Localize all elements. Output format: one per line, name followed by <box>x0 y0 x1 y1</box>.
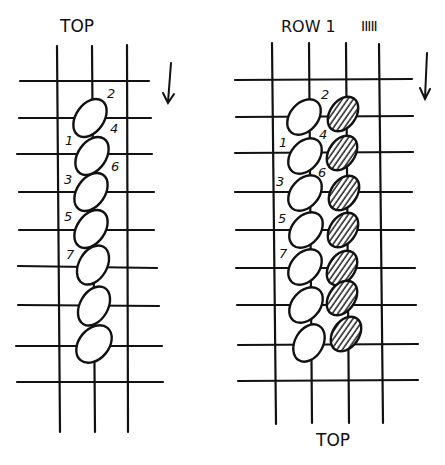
left-title: TOP <box>59 16 94 36</box>
right-hatched-stitches <box>320 91 367 357</box>
svg-text:3: 3 <box>64 172 72 187</box>
svg-text:5: 5 <box>278 211 286 226</box>
right-title: ROW 1 <box>281 17 336 36</box>
svg-text:7: 7 <box>279 246 288 261</box>
svg-text:6: 6 <box>111 159 119 174</box>
right-panel: ROW 1 IIIII <box>235 17 430 450</box>
svg-text:6: 6 <box>318 165 326 180</box>
arrow-down-icon <box>420 53 430 99</box>
svg-text:2: 2 <box>321 87 329 102</box>
svg-text:2: 2 <box>107 86 115 101</box>
left-panel: TOP 1 2 3 4 <box>16 16 174 432</box>
svg-text:5: 5 <box>64 209 72 224</box>
svg-text:1: 1 <box>65 133 73 148</box>
svg-text:3: 3 <box>276 174 284 189</box>
svg-text:7: 7 <box>66 247 75 262</box>
bottom-title: TOP <box>315 430 350 450</box>
tally-marks: IIIII <box>361 18 377 34</box>
arrow-down-icon <box>163 63 174 103</box>
svg-text:4: 4 <box>110 121 118 136</box>
stitch-diagram: TOP 1 2 3 4 <box>0 0 445 465</box>
svg-text:4: 4 <box>319 127 327 142</box>
svg-text:1: 1 <box>279 135 287 150</box>
